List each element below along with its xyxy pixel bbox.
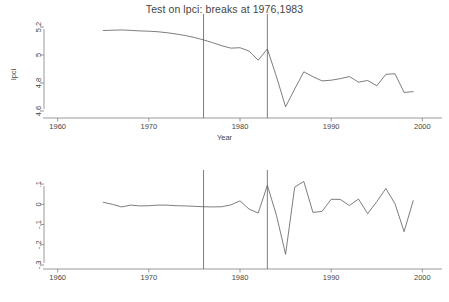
panel-top-xlabel: Year [0, 133, 449, 142]
x-tick-label: 1980 [232, 122, 249, 131]
y-tick-label: -.1 [34, 220, 43, 229]
data-series-line [103, 30, 413, 107]
x-tick-label: 2000 [414, 122, 431, 131]
y-tick-label: 5.2 [34, 22, 43, 32]
panel-bottom-plot: -.3-.2-.10.119601970198019902000 [0, 151, 449, 302]
y-tick-label: .1 [34, 181, 43, 187]
x-tick-label: 1990 [323, 273, 340, 282]
y-tick-label: 4.6 [34, 106, 43, 116]
y-tick-label: 4.8 [34, 78, 43, 88]
chart-figure: Test on lpci: breaks at 1976,1983 4.64.8… [0, 0, 449, 302]
y-tick-label: 0 [34, 202, 43, 206]
data-series-line [103, 181, 413, 254]
x-tick-label: 1990 [323, 122, 340, 131]
y-tick-label: -.3 [34, 261, 43, 270]
x-tick-label: 1970 [140, 273, 157, 282]
panel-top-ylabel: lpci [9, 69, 18, 80]
x-tick-label: 2000 [414, 273, 431, 282]
panel-dlpci: D.lpci -.3-.2-.10.119601970198019902000 … [0, 151, 449, 302]
x-tick-label: 1970 [140, 122, 157, 131]
x-tick-label: 1960 [49, 273, 66, 282]
panel-top-plot: 4.64.855.219601970198019902000 [0, 0, 449, 151]
y-tick-label: 5 [34, 53, 43, 57]
y-tick-label: -.2 [34, 240, 43, 249]
x-tick-label: 1980 [232, 273, 249, 282]
panel-lpci: Test on lpci: breaks at 1976,1983 4.64.8… [0, 0, 449, 151]
x-tick-label: 1960 [49, 122, 66, 131]
